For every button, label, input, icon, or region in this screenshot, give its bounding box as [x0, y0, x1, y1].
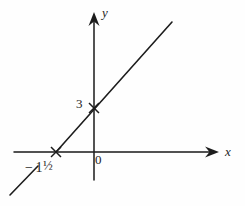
graph-canvas: [0, 0, 245, 206]
y-axis-label: y: [102, 6, 108, 19]
x-intercept-minus-sign: −: [25, 160, 33, 175]
function-line-segment: [56, 22, 172, 152]
x-intercept-whole-number: 1: [35, 160, 43, 175]
x-intercept-label: −1½: [25, 159, 53, 175]
x-intercept-fraction-half: ½: [43, 158, 53, 173]
x-axis-label: x: [225, 145, 231, 158]
graph-figure: y x 3 0 −1½: [0, 0, 245, 206]
y-intercept-label: 3: [76, 97, 83, 110]
origin-label: 0: [95, 153, 102, 166]
